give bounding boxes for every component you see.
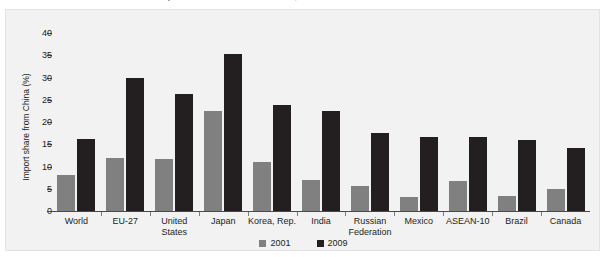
- bar-brazil-2001: [498, 196, 516, 211]
- y-tick-label: 25: [16, 95, 52, 104]
- figure-caption: FIGURE 1 Share of China in total imports…: [8, 0, 364, 1]
- legend-item-2009[interactable]: 2009: [317, 239, 348, 248]
- figure-caption-strip: FIGURE 1 Share of China in total imports…: [0, 0, 605, 5]
- bar-group: [155, 33, 193, 211]
- chart-panel: Import share from China (%) 051015202530…: [5, 9, 600, 251]
- legend-label: 2009: [328, 239, 348, 248]
- y-tick-label: 40: [16, 29, 52, 38]
- y-tick-label: 5: [16, 184, 52, 193]
- bar-group: [204, 33, 242, 211]
- legend-item-2001[interactable]: 2001: [259, 239, 290, 248]
- bar-group: [449, 33, 487, 211]
- bar-eu-27-2001: [106, 158, 124, 211]
- y-tick-label: 0: [16, 207, 52, 216]
- chart-screenshot: FIGURE 1 Share of China in total imports…: [0, 0, 605, 257]
- bar-korea-rep--2009: [273, 105, 291, 211]
- legend-label: 2001: [270, 239, 290, 248]
- bar-group: [106, 33, 144, 211]
- x-axis-line: [52, 211, 590, 212]
- bar-canada-2009: [567, 148, 585, 211]
- y-tick-label: 30: [16, 73, 52, 82]
- y-tick-label: 15: [16, 140, 52, 149]
- bar-world-2009: [77, 139, 95, 211]
- chart-legend: 20012009: [6, 239, 601, 248]
- legend-swatch-icon: [259, 240, 266, 247]
- bar-mexico-2001: [400, 197, 418, 211]
- y-tick-label: 35: [16, 51, 52, 60]
- bar-japan-2001: [204, 111, 222, 211]
- bar-asean-10-2009: [469, 137, 487, 211]
- bar-united-states-2009: [175, 94, 193, 211]
- plot-area: [52, 33, 590, 211]
- x-category-label: Canada: [537, 216, 594, 227]
- bar-group: [547, 33, 585, 211]
- y-tick-label: 10: [16, 162, 52, 171]
- bar-group: [400, 33, 438, 211]
- bar-world-2001: [57, 175, 75, 211]
- bar-canada-2001: [547, 189, 565, 211]
- bar-russian-federation-2009: [371, 133, 389, 211]
- bar-korea-rep--2001: [253, 162, 271, 211]
- bar-group: [351, 33, 389, 211]
- bar-group: [498, 33, 536, 211]
- bar-india-2001: [302, 180, 320, 211]
- bar-india-2009: [322, 111, 340, 211]
- bar-brazil-2009: [518, 140, 536, 211]
- bar-mexico-2009: [420, 137, 438, 211]
- y-tick-label: 20: [16, 118, 52, 127]
- bar-japan-2009: [224, 54, 242, 211]
- bar-asean-10-2001: [449, 181, 467, 211]
- bar-eu-27-2009: [126, 78, 144, 211]
- bar-group: [253, 33, 291, 211]
- bar-united-states-2001: [155, 159, 173, 211]
- bar-group: [57, 33, 95, 211]
- bar-russian-federation-2001: [351, 186, 369, 211]
- y-axis-title: Import share from China (%): [21, 47, 31, 207]
- legend-swatch-icon: [317, 240, 324, 247]
- bar-group: [302, 33, 340, 211]
